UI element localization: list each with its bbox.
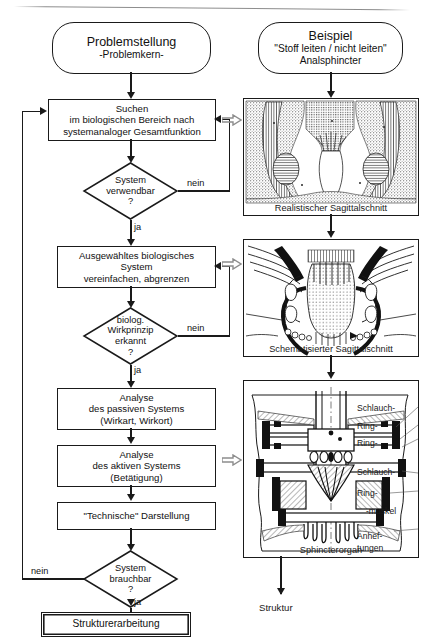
step-suchen-label: Suchen im biologischen Bereich nach syst…	[63, 103, 201, 138]
arrowhead-aktiv-to-technische	[127, 494, 135, 501]
label-d2-nein: nein	[187, 323, 204, 333]
panel-technisch-caption: Sphincterorgan	[244, 545, 418, 555]
step-suchen: Suchen im biologischen Bereich nach syst…	[48, 99, 216, 141]
label-d1-ja: ja	[134, 222, 141, 232]
step-technische-darstellung-label: "Technische" Darstellung	[84, 510, 190, 522]
right-end-label: Struktur	[259, 602, 293, 613]
arrowhead-d1-nein	[214, 115, 221, 123]
left-end-box: Strukturerarbeitung	[41, 612, 191, 637]
branch-d2-nein-h	[178, 335, 230, 337]
step-auswahl-label: Ausgewähltes biologisches System vereinf…	[79, 250, 194, 285]
left-start-line2: -Problemkern-	[99, 49, 164, 61]
annotation-ring-1: Ring-	[357, 421, 378, 431]
arrowhead-d3-nein	[40, 107, 47, 115]
annotation-schlauch-1: Schlauch-	[357, 403, 395, 413]
panel-realistisch-caption: Realistischer Sagittalschnitt	[244, 203, 418, 213]
left-start-terminator: Problemstellung -Problemkern-	[52, 22, 211, 74]
right-start-line2: "Stoff leiten / nicht leiten"	[274, 43, 386, 55]
step-analyse-passiv: Analyse des passiven Systems (Wirkart, W…	[57, 388, 216, 430]
decision-system-verwendbar-label: System verwendbar ?	[83, 162, 178, 220]
left-start-line1: Problemstellung	[87, 35, 177, 50]
label-d3-ja: ja	[134, 597, 141, 607]
arrowhead-passiv-to-aktiv	[127, 437, 135, 444]
decision-wirkprinzip-erkannt: biolog. Wirkprinzip erkannt ?	[83, 307, 178, 365]
panel-schematisch: Schematisierter Sagittalschnitt	[243, 239, 419, 357]
branch-d1-nein-v	[229, 119, 231, 191]
right-start-line3: Analsphincter	[300, 55, 362, 67]
decision-wirkprinzip-label: biolog. Wirkprinzip erkannt ?	[83, 307, 178, 365]
connector-start-to-suchen	[130, 72, 132, 94]
step-auswahl: Ausgewähltes biologisches System vereinf…	[57, 246, 216, 288]
annotation-schlauch-2: Schlauch-	[357, 467, 395, 477]
arrowhead-panel3-to-struktur	[277, 588, 285, 595]
annotation-tungen: tungen	[357, 543, 383, 553]
block-arrow-to-panel-2	[222, 256, 242, 268]
arrowhead-d1-ja	[127, 239, 135, 246]
label-d3-nein: nein	[31, 566, 48, 576]
panel-realistisch: Realistischer Sagittalschnitt	[243, 98, 419, 216]
scan-artifact-line	[14, 6, 410, 10]
arrowhead-d2-nein	[214, 262, 221, 270]
arrowhead-d2-ja	[127, 381, 135, 388]
step-analyse-aktiv: Analyse des aktiven Systems (Betätigung)	[57, 445, 216, 487]
branch-d3-nein-return	[22, 111, 41, 113]
step-analyse-passiv-label: Analyse des passiven Systems (Wirkart, W…	[89, 392, 184, 427]
left-end-label: Strukturerarbeitung	[72, 618, 159, 630]
arrowhead-panel1-to-panel2	[327, 231, 335, 238]
panel-realistisch-art	[244, 99, 418, 215]
figure-canvas: Problemstellung -Problemkern- Suchen im …	[0, 0, 423, 643]
annotation-anhef: Anhef-	[357, 531, 382, 541]
step-technische-darstellung: "Technische" Darstellung	[57, 502, 216, 530]
arrowhead-right-start-to-panel1	[327, 91, 335, 98]
block-arrow-to-panel-3	[222, 452, 242, 464]
branch-d1-nein-h	[178, 190, 230, 192]
block-arrow-to-panel-1	[222, 112, 242, 124]
branch-d3-nein-h	[22, 578, 84, 580]
arrowhead-panel2-to-panel3	[327, 372, 335, 379]
right-start-terminator: Beispiel "Stoff leiten / nicht leiten" A…	[258, 22, 403, 74]
panel-schematisch-art	[244, 240, 418, 356]
right-start-line1: Beispiel	[309, 29, 353, 44]
branch-d3-nein-v	[22, 111, 24, 579]
label-d1-nein: nein	[187, 178, 204, 188]
arrowhead-start-to-suchen	[127, 92, 135, 99]
annotation-ring-2: Ring-	[357, 438, 378, 448]
annotation-ring-3: Ring-	[357, 488, 378, 498]
label-d2-ja: ja	[134, 365, 141, 375]
decision-system-verwendbar: System verwendbar ?	[83, 162, 178, 220]
panel-schematisch-caption: Schematisierter Sagittalschnitt	[244, 344, 418, 354]
step-analyse-aktiv-label: Analyse des aktiven Systems (Betätigung)	[93, 449, 181, 484]
annotation-muskel: -muskel	[366, 506, 396, 516]
branch-d2-nein-v	[229, 266, 231, 336]
